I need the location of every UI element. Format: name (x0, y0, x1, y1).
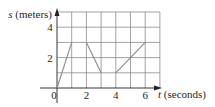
x-tick-label: 0 (51, 89, 57, 101)
x-axis-var: t (158, 88, 162, 100)
y-axis-label: s (meters) (8, 8, 52, 21)
y-tick-label: 4 (47, 21, 53, 33)
segment-1 (57, 42, 72, 88)
x-axis-unit: (seconds) (164, 88, 206, 101)
x-tick-label: 4 (113, 89, 119, 101)
y-tick-label: 2 (47, 52, 53, 64)
x-axis-label: t (seconds) (158, 88, 206, 101)
x-tick-label: 6 (142, 89, 148, 101)
position-time-chart: 024624 s (meters) t (seconds) (0, 0, 215, 107)
labels: 024624 (47, 21, 148, 101)
y-axis-var: s (8, 8, 12, 20)
grid (57, 12, 160, 88)
x-tick-label: 2 (84, 89, 90, 101)
y-axis-unit: (meters) (15, 8, 52, 21)
